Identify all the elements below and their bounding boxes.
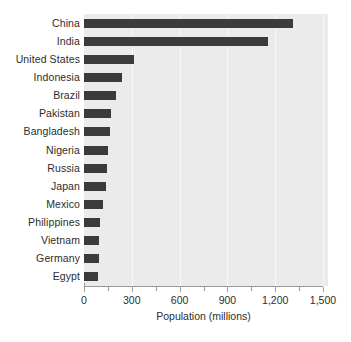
- x-tick-label: 1,500: [310, 294, 336, 306]
- x-tick: [84, 287, 85, 292]
- x-tick: [275, 287, 276, 292]
- x-axis-ticks: [84, 287, 323, 292]
- category-label: Germany: [0, 253, 80, 264]
- category-axis-labels: ChinaIndiaUnited StatesIndonesiaBrazilPa…: [0, 14, 80, 286]
- category-label: Brazil: [0, 90, 80, 101]
- category-label: Pakistan: [0, 108, 80, 119]
- category-label: Indonesia: [0, 72, 80, 83]
- population-bar-chart: ChinaIndiaUnited StatesIndonesiaBrazilPa…: [0, 0, 351, 342]
- bar-series: [84, 14, 328, 286]
- bar: [84, 272, 98, 281]
- bar: [84, 146, 108, 155]
- plot-area: [84, 14, 328, 286]
- bar: [84, 254, 99, 263]
- x-tick: [227, 287, 228, 292]
- category-label: Egypt: [0, 271, 80, 282]
- x-minor-tick: [299, 287, 300, 291]
- bar: [84, 73, 122, 82]
- category-label: Philippines: [0, 217, 80, 228]
- bar: [84, 37, 268, 46]
- x-minor-tick: [204, 287, 205, 291]
- x-tick-label: 300: [123, 294, 141, 306]
- bar: [84, 200, 103, 209]
- bar: [84, 127, 110, 136]
- bar: [84, 218, 100, 227]
- category-label: Japan: [0, 181, 80, 192]
- category-label: Bangladesh: [0, 126, 80, 137]
- bar: [84, 164, 107, 173]
- category-label: United States: [0, 54, 80, 65]
- bar: [84, 91, 116, 100]
- category-label: Nigeria: [0, 145, 80, 156]
- bar: [84, 109, 111, 118]
- category-label: China: [0, 18, 80, 29]
- bar: [84, 182, 106, 191]
- x-axis-title: Population (millions): [84, 310, 323, 323]
- x-minor-tick: [108, 287, 109, 291]
- x-minor-tick: [251, 287, 252, 291]
- x-tick-label: 600: [171, 294, 189, 306]
- x-tick-label: 900: [219, 294, 237, 306]
- bar: [84, 55, 134, 64]
- x-tick-label: 0: [81, 294, 87, 306]
- x-tick: [180, 287, 181, 292]
- x-tick: [132, 287, 133, 292]
- category-label: Mexico: [0, 199, 80, 210]
- bar: [84, 236, 99, 245]
- category-label: India: [0, 36, 80, 47]
- category-label: Vietnam: [0, 235, 80, 246]
- x-tick: [323, 287, 324, 292]
- category-label: Russia: [0, 163, 80, 174]
- x-axis-tick-labels: 03006009001,2001,500: [0, 294, 351, 308]
- x-minor-tick: [156, 287, 157, 291]
- x-tick-label: 1,200: [262, 294, 288, 306]
- bar: [84, 19, 293, 28]
